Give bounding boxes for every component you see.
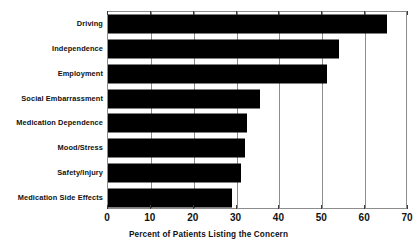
tick-mark-10 bbox=[150, 205, 151, 209]
plot-area bbox=[107, 11, 407, 209]
tick-mark-70 bbox=[407, 205, 408, 209]
tick-mark-50 bbox=[321, 205, 322, 209]
tick-mark-20 bbox=[193, 11, 194, 15]
category-label: Social Embarrassment bbox=[0, 93, 103, 102]
tick-mark-10 bbox=[150, 11, 151, 15]
x-axis-title: Percent of Patients Listing the Concern bbox=[0, 230, 417, 239]
tick-mark-50 bbox=[321, 11, 322, 15]
x-tick-label: 70 bbox=[401, 212, 412, 224]
tick-mark-30 bbox=[236, 11, 237, 15]
category-axis: DrivingIndependenceEmploymentSocial Emba… bbox=[0, 11, 103, 209]
bar bbox=[108, 15, 387, 34]
tick-mark-0 bbox=[107, 11, 108, 15]
x-tick-label: 0 bbox=[104, 212, 110, 224]
x-axis-tick-labels: 010203040506070 bbox=[0, 212, 417, 226]
x-tick-label: 20 bbox=[187, 212, 198, 224]
x-tick-label: 40 bbox=[273, 212, 284, 224]
bar-chart: DrivingIndependenceEmploymentSocial Emba… bbox=[0, 0, 417, 247]
x-tick-label: 30 bbox=[230, 212, 241, 224]
tick-mark-40 bbox=[278, 205, 279, 209]
bar bbox=[108, 64, 327, 83]
category-label: Employment bbox=[0, 68, 103, 77]
tick-mark-0 bbox=[107, 205, 108, 209]
bar bbox=[108, 139, 245, 158]
category-label: Independence bbox=[0, 44, 103, 53]
tick-mark-20 bbox=[193, 205, 194, 209]
category-label: Medication Side Effects bbox=[0, 192, 103, 201]
x-tick-label: 50 bbox=[316, 212, 327, 224]
category-label: Mood/Stress bbox=[0, 143, 103, 152]
x-tick-label: 10 bbox=[144, 212, 155, 224]
bar bbox=[108, 114, 247, 133]
bars-layer bbox=[108, 12, 406, 208]
category-label: Safety/Injury bbox=[0, 167, 103, 176]
bar bbox=[108, 40, 339, 59]
bar bbox=[108, 188, 232, 207]
category-label: Medication Dependence bbox=[0, 118, 103, 127]
bar bbox=[108, 163, 241, 182]
tick-mark-40 bbox=[278, 11, 279, 15]
x-tick-label: 60 bbox=[359, 212, 370, 224]
tick-mark-60 bbox=[364, 205, 365, 209]
bar bbox=[108, 89, 260, 108]
tick-mark-60 bbox=[364, 11, 365, 15]
tick-mark-30 bbox=[236, 205, 237, 209]
category-label: Driving bbox=[0, 19, 103, 28]
tick-mark-70 bbox=[407, 11, 408, 15]
